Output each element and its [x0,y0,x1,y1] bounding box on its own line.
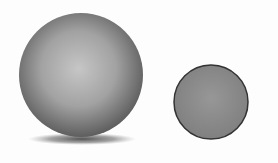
diagram-canvas [0,0,278,163]
spheres-figure [0,0,278,163]
small-circle [174,65,248,139]
large-sphere [19,13,143,137]
